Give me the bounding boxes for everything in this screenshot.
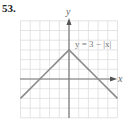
x-axis-arrow-icon <box>110 77 117 82</box>
y-axis-label: y <box>65 6 71 17</box>
equation-label: y = 3 − |x| <box>75 39 111 49</box>
graph: x y y = 3 − |x| <box>0 0 124 124</box>
x-axis-label: x <box>117 73 123 84</box>
y-axis-arrow-icon <box>67 18 72 25</box>
